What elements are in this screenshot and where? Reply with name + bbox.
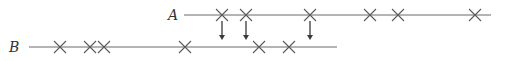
- timeline-diagram: A B: [0, 0, 505, 61]
- line-a-label: A: [166, 7, 178, 23]
- event-arrows: [219, 21, 313, 40]
- down-arrow-2: [243, 21, 249, 40]
- line-b-label: B: [8, 39, 19, 55]
- down-arrow-3: [307, 21, 313, 40]
- down-arrow-1: [219, 21, 225, 40]
